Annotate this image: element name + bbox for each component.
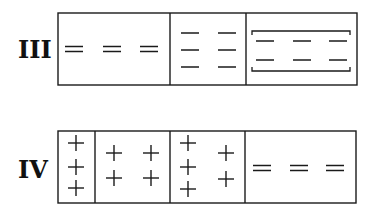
row-box: [58, 131, 356, 203]
bracket-bottom: [252, 67, 350, 71]
bracket-top: [252, 31, 350, 35]
diagram-canvas: [0, 0, 375, 214]
row-box: [58, 13, 357, 85]
